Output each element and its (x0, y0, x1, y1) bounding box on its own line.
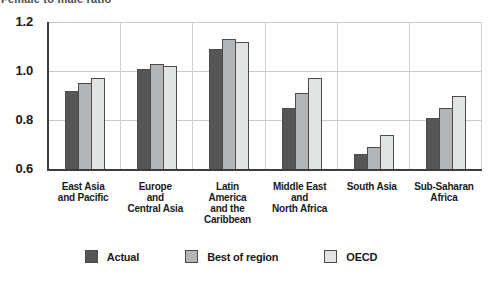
x-category-label: Europe and Central Asia (119, 181, 191, 225)
bar-actual (209, 49, 223, 169)
bar-oecd (163, 66, 177, 169)
x-category-label: East Asia and Pacific (47, 181, 119, 225)
y-tick-label: 1.0 (16, 63, 33, 79)
bar-best-of-region (367, 147, 381, 169)
x-category-label: Middle East and North Africa (264, 181, 336, 225)
legend: ActualBest of regionOECD (0, 250, 462, 263)
x-category-label: Sub-Saharan Africa (408, 181, 480, 225)
bar-groups (49, 22, 482, 169)
bar-actual (354, 154, 368, 169)
chart-figure: Female to male ratio 0.60.81.01.2 East A… (0, 0, 492, 281)
bar-group (121, 22, 193, 169)
bar-oecd (308, 78, 322, 169)
bar-oecd (452, 96, 466, 170)
bar-best-of-region (222, 39, 236, 169)
bar-group (266, 22, 338, 169)
bar-oecd (235, 42, 249, 169)
bar-actual (65, 91, 79, 169)
bar-best-of-region (78, 83, 92, 169)
y-tick-label: 0.6 (16, 161, 33, 177)
legend-swatch (324, 250, 337, 263)
bar-oecd (380, 135, 394, 169)
bar-actual (282, 108, 296, 169)
x-category-label: South Asia (336, 181, 408, 225)
x-axis-labels: East Asia and PacificEurope and Central … (47, 181, 480, 225)
legend-item: Best of region (185, 250, 278, 263)
bar-oecd (91, 78, 105, 169)
legend-swatch (85, 250, 98, 263)
bar-actual (426, 118, 440, 169)
bar-actual (137, 69, 151, 169)
y-tick-label: 1.2 (16, 14, 33, 30)
plot-area (47, 22, 482, 171)
bar-best-of-region (439, 108, 453, 169)
bar-group (338, 22, 410, 169)
bar-group (410, 22, 482, 169)
bar-best-of-region (150, 64, 164, 169)
legend-item: OECD (324, 250, 377, 263)
legend-label: Best of region (207, 251, 278, 263)
bar-group (193, 22, 265, 169)
y-tick-label: 0.8 (16, 112, 33, 128)
legend-label: OECD (346, 251, 377, 263)
x-category-label: Latin America and the Caribbean (191, 181, 263, 225)
figure-caption-clipped: Female to male ratio (1, 0, 111, 5)
legend-swatch (185, 250, 198, 263)
legend-label: Actual (107, 251, 139, 263)
legend-item: Actual (85, 250, 139, 263)
bar-best-of-region (295, 93, 309, 169)
y-axis-labels: 0.60.81.01.2 (0, 22, 40, 169)
bar-group (49, 22, 121, 169)
